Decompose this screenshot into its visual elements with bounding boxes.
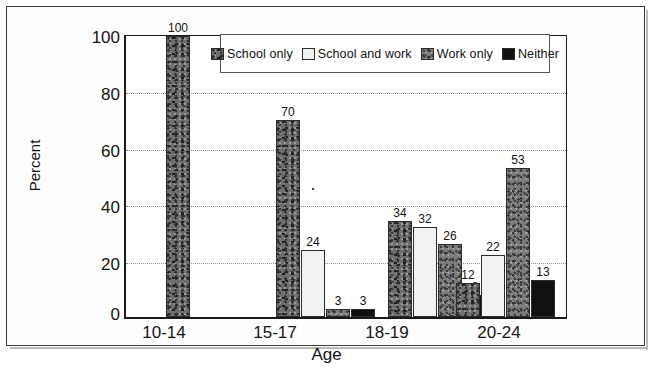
bar-value-school-only-10-14: 100 — [158, 22, 198, 34]
scan-artifact-speck — [312, 188, 314, 190]
y-tick-20: 20 — [80, 256, 120, 273]
y-tick-0: 0 — [80, 306, 120, 323]
y-tick-80: 80 — [80, 86, 120, 103]
bar-school-and-work-15-17[interactable]: 24 — [301, 250, 325, 317]
y-tick-40: 40 — [80, 199, 120, 216]
figure-page: 100 80 60 40 20 0 Percent 100 70 — [0, 0, 660, 371]
y-axis-ticks: 100 80 60 40 20 0 — [72, 7, 120, 371]
dark-speckle-swatch-icon — [211, 48, 224, 60]
frame-shadow-right — [646, 10, 648, 350]
legend-item-work-only[interactable]: Work only — [421, 47, 493, 61]
plot-area: 100 70 24 3 3 34 — [124, 35, 567, 319]
bar-work-only-20-24[interactable]: 53 — [506, 168, 530, 317]
chart-legend: School only School and work Work only Ne… — [220, 34, 550, 73]
bar-group-20-24: 12 22 53 13 — [456, 36, 566, 317]
bar-value-neither-20-24: 13 — [523, 266, 563, 278]
x-axis-title: Age — [7, 345, 646, 365]
black-swatch-icon — [502, 48, 515, 60]
legend-item-school-and-work[interactable]: School and work — [302, 47, 412, 61]
legend-item-neither[interactable]: Neither — [502, 47, 559, 61]
bar-school-only-18-19[interactable]: 34 — [388, 221, 412, 317]
legend-label-school-and-work: School and work — [318, 47, 412, 61]
bar-school-only-10-14[interactable]: 100 — [166, 36, 190, 317]
bar-value-neither-15-17: 3 — [343, 295, 383, 307]
x-tick-15-17: 15-17 — [220, 323, 330, 343]
y-axis-title: Percent — [26, 121, 43, 211]
legend-label-school-only: School only — [227, 47, 293, 61]
y-tick-100: 100 — [80, 29, 120, 46]
gray-speckle-swatch-icon — [421, 48, 434, 60]
bar-value-work-only-20-24: 53 — [498, 154, 538, 166]
legend-item-school-only[interactable]: School only — [211, 47, 293, 61]
light-swatch-icon — [302, 48, 315, 60]
bar-neither-15-17[interactable]: 3 — [351, 309, 375, 317]
legend-label-work-only: Work only — [437, 47, 493, 61]
bar-value-school-and-work-18-19: 32 — [405, 213, 445, 225]
bar-group-15-17: 70 24 3 3 — [276, 36, 386, 317]
x-tick-18-19: 18-19 — [332, 323, 442, 343]
legend-label-neither: Neither — [518, 47, 559, 61]
x-tick-20-24: 20-24 — [444, 323, 554, 343]
bar-school-only-20-24[interactable]: 12 — [456, 283, 480, 317]
bar-work-only-15-17[interactable]: 3 — [326, 309, 350, 317]
y-tick-60: 60 — [80, 143, 120, 160]
x-tick-10-14: 10-14 — [109, 323, 219, 343]
bar-school-and-work-20-24[interactable]: 22 — [481, 255, 505, 317]
bar-value-school-and-work-15-17: 24 — [293, 236, 333, 248]
figure-frame: 100 80 60 40 20 0 Percent 100 70 — [6, 6, 645, 346]
bar-group-10-14: 100 — [166, 36, 266, 317]
bar-school-only-15-17[interactable]: 70 — [276, 120, 300, 317]
bar-value-school-only-15-17: 70 — [268, 106, 308, 118]
bar-neither-20-24[interactable]: 13 — [531, 280, 555, 317]
